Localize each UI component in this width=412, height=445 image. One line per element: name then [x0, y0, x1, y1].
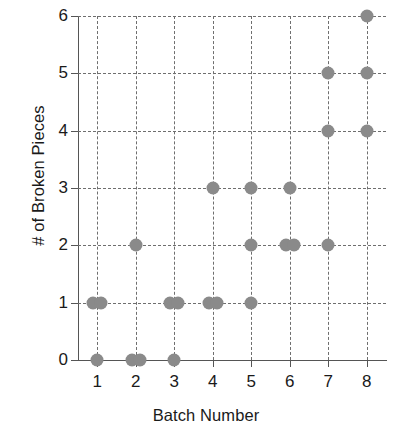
x-axis-tick-label: 6: [275, 372, 305, 392]
y-axis-tick: [71, 131, 78, 132]
x-axis-tick-label: 5: [236, 372, 266, 392]
x-axis-tick-label: 1: [82, 372, 112, 392]
x-axis-tick-label: 3: [159, 372, 189, 392]
grid-line-horizontal: [78, 131, 386, 132]
y-axis-tick: [71, 360, 78, 361]
y-axis-tick-label: 5: [42, 63, 68, 83]
x-axis-tick: [290, 360, 291, 367]
y-axis-tick-label: 3: [42, 178, 68, 198]
y-axis-tick: [71, 73, 78, 74]
data-point: [322, 67, 335, 80]
x-axis-tick: [367, 360, 368, 367]
data-point: [95, 296, 108, 309]
plot-area: [78, 16, 386, 360]
x-axis-tick-label: 7: [313, 372, 343, 392]
y-axis-tick: [71, 16, 78, 17]
x-axis-tick: [328, 360, 329, 367]
data-point: [133, 354, 146, 367]
y-axis-tick: [71, 245, 78, 246]
data-point: [168, 354, 181, 367]
y-axis-tick-label: 6: [42, 6, 68, 26]
data-point: [322, 124, 335, 137]
data-point: [287, 239, 300, 252]
data-point: [210, 296, 223, 309]
data-point: [360, 10, 373, 23]
data-point: [91, 354, 104, 367]
y-axis-tick: [71, 188, 78, 189]
data-point: [283, 182, 296, 195]
x-axis-tick: [213, 360, 214, 367]
y-axis-tick-label: 1: [42, 293, 68, 313]
y-axis-tick-label: 4: [42, 121, 68, 141]
y-axis-tick: [71, 303, 78, 304]
grid-line-horizontal: [78, 245, 386, 246]
grid-line-horizontal: [78, 303, 386, 304]
data-point: [172, 296, 185, 309]
data-point: [245, 296, 258, 309]
x-axis-tick-label: 8: [352, 372, 382, 392]
data-point: [129, 239, 142, 252]
data-point: [322, 239, 335, 252]
data-point: [360, 67, 373, 80]
data-point: [206, 182, 219, 195]
grid-line-horizontal: [78, 16, 386, 17]
data-point: [245, 182, 258, 195]
x-axis-tick-label: 2: [121, 372, 151, 392]
y-axis-tick-label: 0: [42, 350, 68, 370]
scatter-plot-figure: # of Broken Pieces Batch Number 01234561…: [0, 0, 412, 445]
x-axis-tick: [251, 360, 252, 367]
grid-line-horizontal: [78, 73, 386, 74]
data-point: [360, 124, 373, 137]
x-axis-title: Batch Number: [0, 406, 412, 425]
data-point: [245, 239, 258, 252]
grid-line-horizontal: [78, 188, 386, 189]
grid-line-vertical: [136, 16, 137, 360]
x-axis-tick-label: 4: [198, 372, 228, 392]
y-axis-tick-label: 2: [42, 235, 68, 255]
